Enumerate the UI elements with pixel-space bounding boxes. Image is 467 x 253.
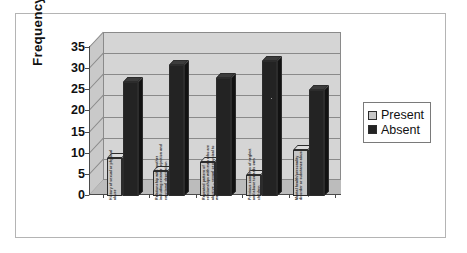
x-tick-mark <box>289 194 290 198</box>
y-tick-label: 15 <box>71 125 85 138</box>
y-tick-mark <box>85 174 89 175</box>
y-tick-mark <box>85 195 89 196</box>
gridline <box>103 53 341 54</box>
y-axis-line <box>89 46 90 195</box>
legend-label-absent: Absent <box>381 124 420 137</box>
y-axis-title: Frequency <box>30 0 45 66</box>
bar-side-face <box>138 77 143 196</box>
bar-absent-3 <box>262 61 277 196</box>
chart-figure: 05101520253035 History of sexual or phys… <box>15 13 446 238</box>
y-tick-mark <box>85 153 89 154</box>
y-tick-mark <box>85 110 89 111</box>
plot-area: 05101520253035 History of sexual or phys… <box>89 32 341 196</box>
y-tick-label: 0 <box>78 189 85 202</box>
y-tick-label: 30 <box>71 62 85 75</box>
x-tick-mark <box>196 194 197 198</box>
legend-item-present: Present <box>368 109 424 122</box>
artifact-speck <box>271 98 272 99</box>
bar-side-face <box>184 60 189 196</box>
bar-absent-1 <box>169 65 184 196</box>
chart-legend: Present Absent <box>363 102 431 143</box>
legend-swatch-present-icon <box>368 111 377 120</box>
y-tick-mark <box>85 47 89 48</box>
category-label-0: History of sexual or physical abuse <box>109 144 118 200</box>
y-tick-mark <box>85 68 89 69</box>
bar-side-face <box>277 56 282 196</box>
y-tick-mark <box>85 89 89 90</box>
category-label-4: Mental health/personality disorder or su… <box>295 144 304 200</box>
category-label-3: Previous concerns of neglect and abuse t… <box>248 144 261 200</box>
bar-side-face <box>231 73 236 196</box>
bar-absent-0 <box>123 82 138 196</box>
x-tick-mark <box>242 194 243 198</box>
y-tick-label: 5 <box>78 168 85 181</box>
category-label-2: Repeated pattern of relationships with m… <box>202 144 220 200</box>
bar-front-face <box>169 65 184 196</box>
bar-front-face <box>123 82 138 196</box>
bar-front-face <box>309 90 324 196</box>
x-tick-mark <box>103 194 104 198</box>
x-tick-mark <box>335 194 336 198</box>
bar-absent-4 <box>309 90 324 196</box>
y-tick-label: 35 <box>71 41 85 54</box>
y-tick-label: 20 <box>71 104 85 117</box>
legend-item-absent: Absent <box>368 124 424 137</box>
y-tick-label: 10 <box>71 146 85 159</box>
legend-label-present: Present <box>381 109 424 122</box>
legend-swatch-absent-icon <box>368 125 377 134</box>
x-tick-mark <box>149 194 150 198</box>
gridline <box>103 32 341 33</box>
bar-front-face <box>262 61 277 196</box>
category-label-1: Relationship with mother including extre… <box>155 144 168 200</box>
y-tick-label: 25 <box>71 83 85 96</box>
bar-side-face <box>324 86 329 196</box>
y-tick-mark <box>85 132 89 133</box>
